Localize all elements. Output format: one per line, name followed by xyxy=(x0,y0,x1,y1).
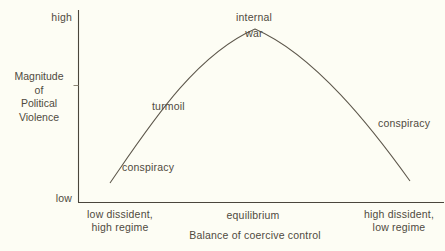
y-tick-label-low: low xyxy=(56,192,72,204)
y-axis-title-line-2: of xyxy=(4,84,74,98)
y-axis-title-line-1: Magnitude xyxy=(4,70,74,84)
annotation-conspiracy-left: conspiracy xyxy=(122,161,174,173)
y-axis-title-line-3: Political xyxy=(4,97,74,111)
y-axis-title: Magnitude of Political Violence xyxy=(4,70,74,124)
x-tick-label-high-dissident-line-2: low regime xyxy=(364,221,434,234)
annotation-turmoil: turmoil xyxy=(152,100,185,112)
x-tick-label-high-dissident: high dissident, low regime xyxy=(364,208,434,234)
y-axis-title-line-4: Violence xyxy=(4,111,74,125)
political-violence-chart: high low Magnitude of Political Violence… xyxy=(0,0,445,251)
x-tick-label-equilibrium: equilibrium xyxy=(227,209,280,221)
x-tick-label-low-dissident-line-1: low dissident, xyxy=(87,208,153,221)
x-tick-label-low-dissident-line-2: high regime xyxy=(87,221,153,234)
x-tick-label-low-dissident: low dissident, high regime xyxy=(87,208,153,234)
annotation-conspiracy-right: conspiracy xyxy=(378,117,430,129)
y-tick-label-high: high xyxy=(51,11,72,23)
annotation-war: war xyxy=(245,27,263,39)
x-tick-label-high-dissident-line-1: high dissident, xyxy=(364,208,434,221)
x-axis-title: Balance of coercive control xyxy=(189,229,320,241)
annotation-internal: internal xyxy=(236,11,272,23)
